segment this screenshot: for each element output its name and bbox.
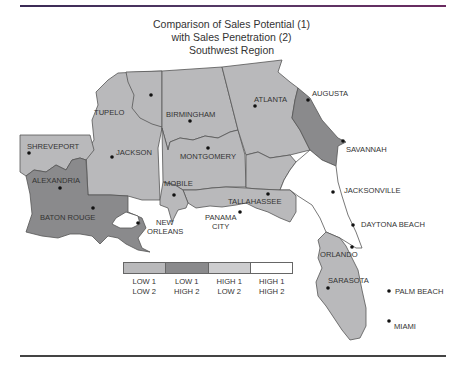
legend-line2: LOW 2 [123, 287, 166, 297]
legend-line2: HIGH 2 [251, 287, 294, 297]
legend-line1: LOW 1 [166, 277, 209, 287]
label-daytona-beach: DAYTONA BEACH [361, 220, 425, 229]
dot-atlanta [253, 104, 257, 108]
label-palm-beach: PALM BEACH [395, 287, 443, 296]
dot-jackson [110, 155, 114, 159]
dot-montgomery [206, 146, 210, 150]
dot-daytona-beach [351, 223, 355, 227]
dot-mobile [172, 193, 176, 197]
swatch-high1-low2 [209, 263, 251, 273]
label-atlanta: ATLANTA [254, 95, 288, 104]
legend-line1: HIGH 1 [251, 277, 294, 287]
label-new: NEW [156, 218, 175, 227]
dot-tupelo [149, 93, 153, 97]
legend-line1: HIGH 1 [208, 277, 251, 287]
dot-panama-city [238, 210, 242, 214]
legend-line2: LOW 2 [208, 287, 251, 297]
dot-sarasota [326, 286, 330, 290]
label-jackson: JACKSON [116, 148, 152, 157]
label-sarasota: SARASOTA [328, 276, 370, 285]
dot-baton-rouge [91, 206, 95, 210]
label-jacksonville: JACKSONVILLE [344, 186, 401, 195]
legend-swatches [123, 262, 293, 274]
label-baton-rouge: BATON ROUGE [40, 213, 95, 222]
label-city: CITY [212, 222, 229, 231]
label-augusta: AUGUSTA [312, 89, 349, 98]
legend-item-low1-low2: LOW 1 LOW 2 [123, 277, 166, 297]
region-savannah[interactable] [292, 88, 346, 166]
dot-alexandria [58, 186, 62, 190]
legend-item-high1-high2: HIGH 1 HIGH 2 [251, 277, 294, 297]
swatch-high1-high2 [251, 263, 292, 273]
dot-palm-beach [387, 289, 391, 293]
dot-augusta [306, 98, 310, 102]
swatch-low1-high2 [166, 263, 208, 273]
legend-item-low1-high2: LOW 1 HIGH 2 [166, 277, 209, 297]
dot-birmingham [188, 119, 192, 123]
region-map: TUPELO BIRMINGHAM ATLANTA AUGUSTA SHREVE… [0, 0, 463, 369]
label-miami: MIAMI [394, 322, 416, 331]
bottom-rule [20, 355, 446, 357]
dot-orlando [350, 245, 354, 249]
legend: LOW 1 LOW 2 LOW 1 HIGH 2 HIGH 1 LOW 2 HI… [123, 262, 293, 297]
label-mobile: MOBILE [164, 179, 193, 188]
label-panama: PANAMA [205, 213, 237, 222]
dot-savannah [341, 139, 345, 143]
legend-item-high1-low2: HIGH 1 LOW 2 [208, 277, 251, 297]
label-orlando: ORLANDO [320, 250, 358, 259]
swatch-low1-low2 [124, 263, 166, 273]
label-orleans: ORLEANS [147, 227, 183, 236]
label-shreveport: SHREVEPORT [27, 142, 80, 151]
legend-line2: HIGH 2 [166, 287, 209, 297]
dot-tallahassee [266, 192, 270, 196]
label-alexandria: ALEXANDRIA [32, 176, 81, 185]
dot-new-orleans [136, 221, 140, 225]
label-birmingham: BIRMINGHAM [166, 110, 215, 119]
label-savannah: SAVANNAH [346, 145, 387, 154]
label-tupelo: TUPELO [94, 108, 124, 117]
dot-miami [387, 319, 391, 323]
dot-shreveport [27, 151, 31, 155]
legend-line1: LOW 1 [123, 277, 166, 287]
label-tallahassee: TALLAHASSEE [228, 197, 281, 206]
label-montgomery: MONTGOMERY [180, 152, 236, 161]
legend-labels: LOW 1 LOW 2 LOW 1 HIGH 2 HIGH 1 LOW 2 HI… [123, 277, 293, 297]
dot-jacksonville [331, 190, 335, 194]
